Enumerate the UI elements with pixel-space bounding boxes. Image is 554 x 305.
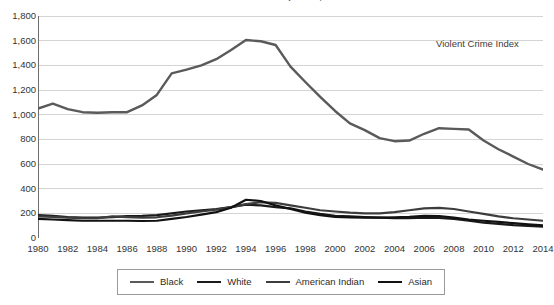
x-axis-tick-label: 2006 <box>414 243 435 254</box>
legend-item-asian[interactable]: Asian <box>378 277 432 287</box>
y-axis-tick-label: 800 <box>2 134 36 144</box>
x-axis-tick-label: 1980 <box>27 243 48 254</box>
series-lines <box>38 40 543 227</box>
y-axis-tick-label: 1,000 <box>2 110 36 120</box>
y-axis-tick-label: 1,200 <box>2 85 36 95</box>
legend-item-label: Black <box>160 277 183 287</box>
chart-title: Juvenile Arrest Rates by Race, 1980-2014 <box>0 0 549 1</box>
x-axis-tick-label: 2008 <box>443 243 464 254</box>
x-axis-tick-label: 2012 <box>503 243 524 254</box>
legend-item-white[interactable]: White <box>197 277 251 287</box>
legend-line-swatch <box>266 281 290 283</box>
x-axis-tick-label: 1990 <box>176 243 197 254</box>
x-axis-tick-label: 1986 <box>117 243 138 254</box>
y-axis-tick-label: 200 <box>2 208 36 218</box>
x-axis-tick-label: 1996 <box>265 243 286 254</box>
legend-line-swatch <box>197 281 221 283</box>
x-axis: 1980198219841986198819901992199419961998… <box>38 243 543 257</box>
x-axis-tick-label: 1994 <box>235 243 256 254</box>
plot-area: Violent Crime Index <box>38 16 543 238</box>
x-axis-tick-label: 1988 <box>146 243 167 254</box>
y-axis-tick-label: 1,400 <box>2 60 36 70</box>
x-axis-tick-label: 2002 <box>354 243 375 254</box>
legend-item-label: Asian <box>408 277 432 287</box>
legend-item-black[interactable]: Black <box>130 277 183 287</box>
y-axis-tick-label: 0 <box>2 233 36 243</box>
series-annotation: Violent Crime Index <box>436 38 519 49</box>
x-axis-tick-label: 2000 <box>324 243 345 254</box>
x-axis-tick-label: 1992 <box>206 243 227 254</box>
plot-svg <box>38 16 543 238</box>
x-axis-tick-label: 2010 <box>473 243 494 254</box>
chart-legend: BlackWhiteAmerican IndianAsian <box>117 269 445 295</box>
x-axis-tick-label: 1984 <box>87 243 108 254</box>
series-line-black <box>38 40 543 170</box>
y-axis: 02004006008001,0001,2001,4001,6001,800 <box>0 16 36 238</box>
y-axis-tick-label: 400 <box>2 184 36 194</box>
legend-item-label: American Indian <box>296 277 365 287</box>
x-axis-tick-label: 1982 <box>57 243 78 254</box>
x-axis-tick-label: 2014 <box>532 243 553 254</box>
axis-lines <box>38 16 39 238</box>
legend-line-swatch <box>378 281 402 283</box>
y-axis-tick-label: 600 <box>2 159 36 169</box>
y-axis-tick-label: 1,800 <box>2 11 36 21</box>
legend-item-label: White <box>227 277 251 287</box>
legend-item-american-indian[interactable]: American Indian <box>266 277 365 287</box>
y-axis-tick-label: 1,600 <box>2 36 36 46</box>
x-axis-tick-label: 1998 <box>295 243 316 254</box>
x-axis-tick-label: 2004 <box>384 243 405 254</box>
legend-line-swatch <box>130 281 154 283</box>
